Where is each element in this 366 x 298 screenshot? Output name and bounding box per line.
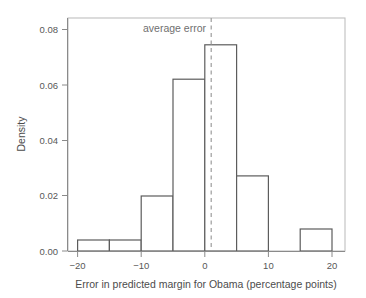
bar-bin-2[interactable] [141,196,173,251]
y-tick-label-0: 0.00 [40,246,59,257]
y-tick-label-1: 0.02 [40,190,59,201]
x-axis-title: Error in predicted margin for Obama (per… [75,278,336,290]
x-tick-label-0: −20 [70,260,86,271]
y-tick-label-2: 0.04 [40,135,59,146]
x-tick-label-4: 20 [327,260,338,271]
chart-canvas: 0.00 0.02 0.04 0.06 0.08 Density average… [0,0,366,298]
bar-bin-7[interactable] [300,229,332,251]
average-error-label: average error [143,22,207,34]
bar-bin-5[interactable] [237,176,269,251]
y-axis-title: Density [15,116,27,152]
x-axis-ticks [78,252,332,258]
y-tick-label-3: 0.06 [40,80,59,91]
histogram-bars [78,45,332,251]
x-tick-label-2: 0 [202,260,207,271]
histogram-chart: 0.00 0.02 0.04 0.06 0.08 Density average… [0,0,366,298]
bar-bin-0[interactable] [78,240,110,251]
y-tick-label-4: 0.08 [40,24,59,35]
bar-bin-4[interactable] [205,45,237,251]
x-tick-label-1: −10 [133,260,149,271]
bar-bin-1[interactable] [109,240,141,251]
y-axis-ticks [62,30,68,252]
x-tick-label-3: 10 [263,260,274,271]
bar-bin-3[interactable] [173,79,205,251]
